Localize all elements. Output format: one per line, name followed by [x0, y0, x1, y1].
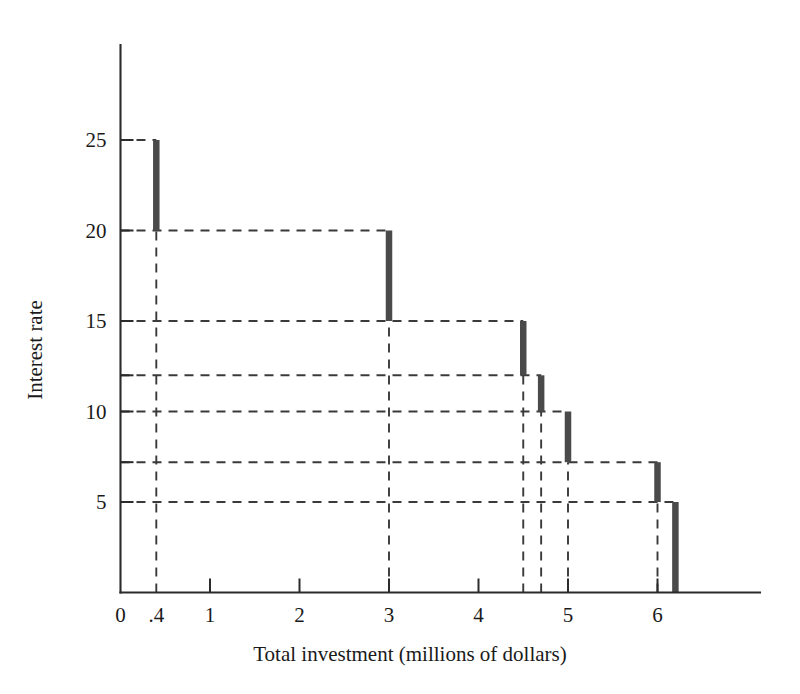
y-tick-label: 10 [86, 400, 107, 424]
x-axis-ticks: 0.4123456 [115, 579, 663, 627]
x-tick-label: 3 [384, 603, 395, 627]
chart-canvas: 0.4123456 510152025 Total investment (mi… [0, 0, 800, 694]
y-axis-ticks: 510152025 [86, 128, 134, 514]
vertical-guide-lines [156, 231, 657, 593]
x-tick-label: 6 [652, 603, 663, 627]
y-tick-label: 5 [96, 490, 107, 514]
x-tick-label: .4 [148, 603, 164, 627]
y-axis-title: Interest rate [23, 300, 47, 400]
x-tick-label: 4 [473, 603, 484, 627]
x-tick-label: 1 [205, 603, 216, 627]
y-tick-label: 15 [86, 309, 107, 333]
x-tick-label: 5 [563, 603, 574, 627]
step-bars [156, 140, 675, 593]
investment-demand-chart: 0.4123456 510152025 Total investment (mi… [0, 0, 800, 694]
x-tick-label: 0 [115, 603, 126, 627]
y-tick-label: 25 [86, 128, 107, 152]
x-tick-label: 2 [294, 603, 305, 627]
y-tick-label: 20 [86, 219, 107, 243]
horizontal-guide-lines [121, 140, 676, 502]
axis-lines [121, 45, 761, 593]
x-axis-title: Total investment (millions of dollars) [253, 642, 566, 666]
